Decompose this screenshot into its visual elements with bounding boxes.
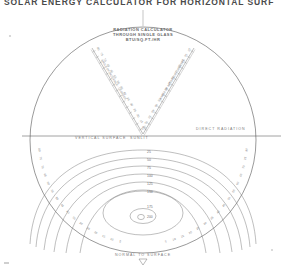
right-scale-title: ANGLE OF INCIDENCE - DEGREES [158, 58, 185, 100]
right-scale-line-2 [144, 50, 195, 136]
arc-tick-label: 45 [221, 203, 226, 208]
scale-tick-label: 20 [136, 113, 141, 118]
arc-tick-label: 35 [209, 215, 214, 220]
arc-tick-label: 5 [119, 239, 122, 243]
scale-tick-label: 75 [99, 52, 104, 57]
arc-tick-label: 80 [244, 148, 248, 152]
contour-value-label: 50 [147, 158, 151, 162]
scale-tick-label: 65 [150, 109, 155, 114]
contour-value-label: 100 [147, 174, 153, 178]
arc-tick-label: 70 [40, 165, 45, 170]
vertical-surface-label: VERTICAL SURFACE [75, 136, 126, 140]
arc-tick-label: 65 [238, 173, 243, 178]
radiation-contours [30, 150, 256, 253]
scale-tick-label: 80 [96, 46, 101, 51]
arc-tick-label: 50 [226, 196, 231, 201]
scale-tick-label: 80 [140, 125, 145, 130]
scale-tick [139, 129, 142, 131]
incidence-angle-scales: 807570656055504540353025201510 101520253… [91, 46, 195, 135]
arc-tick-label: 70 [241, 164, 246, 169]
arc-tick-label: 30 [79, 221, 84, 226]
scale-tick-label: 30 [129, 102, 134, 107]
contour-value-label: 200 [147, 215, 153, 219]
contour-value-label: 125 [147, 182, 153, 186]
arc-tick-label: 15 [101, 234, 106, 239]
arc-tick-label: 10 [172, 237, 177, 242]
contour-150 [80, 190, 206, 253]
arc-tick-label: 55 [231, 188, 236, 193]
arc-tick-label: 75 [243, 156, 248, 160]
contour-175 [103, 191, 183, 235]
scale-tick-label: 15 [139, 119, 144, 124]
arc-tick-label: 15 [180, 234, 185, 239]
arc-tick-label: 55 [50, 189, 55, 194]
scale-tick [122, 101, 125, 103]
scan-speck [271, 249, 273, 251]
chart-canvas: RADIATION CALCULATOR THROUGH SINGLE GLAS… [0, 0, 281, 274]
scale-tick-label: 60 [153, 103, 158, 108]
arc-tick-label: 60 [235, 181, 240, 186]
left-scale-title: ANGLE OF INCIDENCE - DEGREES [100, 58, 127, 100]
direct-radiation-label: DIRECT RADIATION [196, 127, 246, 131]
sunlit-label: SUNLIT [130, 136, 149, 140]
scale-tick [96, 56, 99, 58]
contour-labels: 255075100125150175200 [147, 150, 153, 219]
scale-tick-label: 70 [147, 114, 152, 119]
arc-tick-label: 75 [38, 156, 43, 160]
arc-tick-label: 80 [37, 148, 41, 152]
contour-125 [66, 182, 220, 253]
arc-tick-label: 20 [93, 230, 98, 235]
solar-radiation-calculator-chart: SOLAR ENERGY CALCULATOR FOR HORIZONTAL S… [0, 0, 281, 274]
arc-tick-label: 25 [86, 226, 91, 231]
arc-tick-label: 65 [43, 173, 48, 178]
normal-to-surface-label: NORMAL TO SURFACE [115, 253, 171, 257]
scan-speck [9, 35, 11, 37]
arc-tick-label: 60 [46, 181, 51, 186]
down-arrow-icon [139, 259, 147, 265]
contour-value-label: 150 [147, 190, 153, 194]
contour-value-label: 25 [147, 150, 151, 154]
contour-peak [138, 214, 145, 219]
scale-tick-label: 10 [187, 47, 192, 52]
arc-tick-label: 5 [164, 239, 167, 243]
arc-tick-label: 50 [54, 196, 59, 201]
chart-units: BTU/SQ.FT./HR [126, 37, 161, 42]
contour-value-label: 175 [147, 205, 153, 209]
arc-tick-label: 40 [216, 209, 221, 214]
scale-tick [132, 117, 135, 119]
scale-tick [126, 106, 129, 108]
left-scale-line [92, 48, 143, 134]
contour-value-label: 75 [147, 166, 151, 170]
scale-tick [129, 112, 132, 114]
scale-tick [136, 123, 139, 125]
contour-25 [30, 150, 256, 244]
arc-tick-label: 45 [60, 203, 65, 208]
scale-tick-label: 15 [183, 53, 188, 58]
scale-tick [93, 50, 96, 52]
contour-75 [44, 166, 242, 250]
contour-50 [36, 158, 250, 247]
arc-tick-label: 10 [110, 237, 115, 242]
left-scale-line-2 [91, 50, 142, 136]
bottom-arc-ticks: 8075706560555045403530252015105807570656… [37, 148, 248, 244]
arc-tick-label: 20 [188, 230, 193, 235]
right-scale-line [143, 48, 194, 134]
scan-speck [4, 262, 9, 264]
arc-tick-label: 30 [203, 221, 208, 226]
scale-tick-label: 25 [132, 108, 137, 113]
